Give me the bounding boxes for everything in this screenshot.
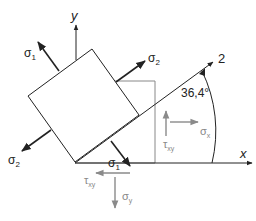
sigma1-top-arrow: σ1 (24, 42, 59, 71)
svg-text:σ2: σ2 (8, 153, 20, 169)
angle-label: 36,4° (181, 86, 209, 100)
tau-xy-right-arrow: τxy (163, 111, 175, 153)
tau-xy-bottom-arrow: τxy (84, 173, 130, 189)
svg-text:σ1: σ1 (24, 46, 36, 62)
sigma2-right-arrow: σ2 (116, 51, 160, 82)
svg-text:σ1: σ1 (108, 156, 120, 172)
svg-text:τxy: τxy (84, 174, 96, 189)
principal-axis-label: 2 (218, 51, 225, 66)
sigma1-bottom-arrow: σ1 (108, 141, 130, 172)
y-axis-label: y (70, 8, 79, 23)
x-axis-label: x (239, 146, 247, 161)
stress-element-diagram: x y 2 36,4° σ1 σ1 σ2 σ2 τxy (0, 0, 256, 221)
y-axis: y (70, 8, 79, 60)
sigma-x-arrow: σx (170, 122, 211, 139)
svg-text:σy: σy (122, 190, 133, 205)
svg-text:τxy: τxy (163, 138, 175, 153)
svg-text:σx: σx (200, 125, 211, 139)
svg-text:σ2: σ2 (148, 51, 160, 67)
sigma2-left-arrow: σ2 (8, 130, 51, 169)
rotated-element (28, 49, 139, 162)
sigma-y-arrow: σy (115, 177, 133, 208)
angle-arc: 36,4° (181, 68, 216, 163)
